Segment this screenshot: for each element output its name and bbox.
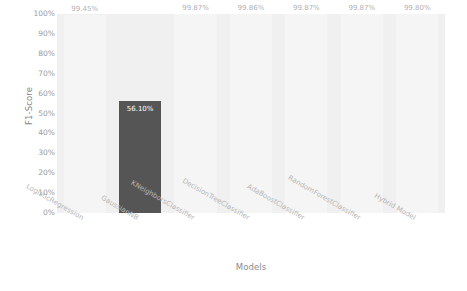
- bar-value-label: 99.87%: [348, 4, 375, 12]
- bar-value-label: 99.87%: [182, 4, 209, 12]
- bar-value-label: 99.86%: [238, 4, 265, 12]
- y-axis-tick-label: 0%: [30, 209, 55, 217]
- bar-slot: 99.80%: [390, 14, 445, 213]
- x-axis-title: Models: [57, 262, 445, 272]
- bar-chart-figure: F1-Score 0%10%20%30%40%50%60%70%80%90%10…: [0, 0, 467, 291]
- y-axis-tick-label: 100%: [30, 10, 55, 18]
- y-axis-tick-label: 90%: [30, 30, 55, 38]
- bar-value-label: 99.87%: [293, 4, 320, 12]
- y-axis-tick-labels: 0%10%20%30%40%50%60%70%80%90%100%: [30, 14, 55, 213]
- bar-value-label: 99.45%: [71, 5, 98, 13]
- y-axis-tick-label: 60%: [30, 90, 55, 98]
- bar-value-label: 56.10%: [127, 105, 154, 113]
- y-axis-tick-label: 80%: [30, 50, 55, 58]
- bar[interactable]: 99.80%: [396, 14, 438, 213]
- bar-value-label: 99.80%: [404, 4, 431, 12]
- y-axis-tick-label: 50%: [30, 110, 55, 118]
- y-axis-tick-label: 70%: [30, 70, 55, 78]
